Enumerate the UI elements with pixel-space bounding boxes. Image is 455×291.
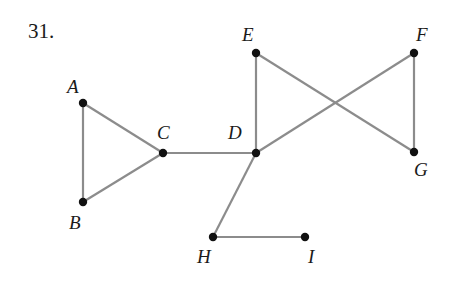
- edges-group: [83, 53, 414, 237]
- vertex-A: [79, 99, 87, 107]
- vertex-G: [410, 148, 418, 156]
- vertex-B: [79, 198, 87, 206]
- vertex-label-I: I: [307, 246, 316, 267]
- vertex-label-F: F: [415, 24, 428, 45]
- edge-B-C: [83, 153, 163, 202]
- labels-group: ABCDEFGHI: [65, 24, 428, 267]
- vertex-label-B: B: [69, 212, 81, 233]
- vertex-label-E: E: [241, 24, 254, 45]
- vertex-H: [209, 233, 217, 241]
- vertex-label-A: A: [65, 76, 79, 97]
- vertex-label-H: H: [196, 246, 212, 267]
- edge-D-H: [213, 153, 256, 237]
- vertex-D: [252, 149, 260, 157]
- vertex-E: [252, 49, 260, 57]
- vertex-label-C: C: [157, 122, 170, 143]
- vertex-label-D: D: [227, 122, 242, 143]
- vertex-C: [159, 149, 167, 157]
- vertices-group: [79, 49, 418, 241]
- vertex-label-G: G: [414, 159, 428, 180]
- edge-A-C: [83, 103, 163, 153]
- graph-diagram: ABCDEFGHI: [0, 0, 455, 291]
- vertex-F: [410, 49, 418, 57]
- vertex-I: [301, 233, 309, 241]
